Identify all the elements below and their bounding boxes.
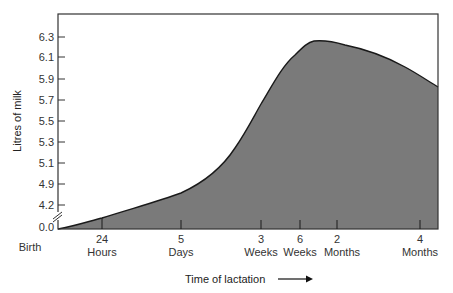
y-tick-6-3: 6.3 bbox=[39, 31, 54, 43]
x-tick-birth: Birth bbox=[19, 241, 42, 253]
y-tick-4-2: 4.2 bbox=[39, 199, 54, 211]
x-tick-2m-unit: Months bbox=[324, 246, 361, 258]
x-tick-3w-num: 3 bbox=[258, 233, 264, 245]
y-tick-5-7: 5.7 bbox=[39, 94, 54, 106]
x-tick-6w-num: 6 bbox=[297, 233, 303, 245]
x-tick-4m-unit: Months bbox=[402, 246, 439, 258]
y-tick-labels: 6.3 6.1 5.9 5.7 5.5 5.3 5.1 4.9 4.2 0.0 bbox=[39, 31, 54, 233]
x-tick-6w-unit: Weeks bbox=[283, 246, 317, 258]
x-axis-title: Time of lactation bbox=[185, 273, 265, 285]
x-tick-4m-num: 4 bbox=[417, 233, 423, 245]
y-tick-5-5: 5.5 bbox=[39, 115, 54, 127]
y-tick-5-9: 5.9 bbox=[39, 73, 54, 85]
y-tick-4-9: 4.9 bbox=[39, 178, 54, 190]
milk-volume-area bbox=[58, 41, 438, 229]
y-axis-title: Litres of milk bbox=[11, 90, 23, 152]
y-tick-5-3: 5.3 bbox=[39, 136, 54, 148]
x-tick-2m-num: 2 bbox=[334, 233, 340, 245]
x-tick-24-num: 24 bbox=[96, 233, 108, 245]
arrow-right-icon bbox=[278, 276, 313, 283]
y-tick-0-0: 0.0 bbox=[39, 221, 54, 233]
y-axis-ticks bbox=[58, 37, 65, 205]
x-tick-labels: Birth 24 Hours 5 Days 3 Weeks 6 Weeks 2 … bbox=[19, 233, 439, 258]
y-tick-6-1: 6.1 bbox=[39, 51, 54, 63]
lactation-chart: 6.3 6.1 5.9 5.7 5.5 5.3 5.1 4.9 4.2 0.0 … bbox=[0, 0, 453, 293]
y-tick-5-1: 5.1 bbox=[39, 157, 54, 169]
x-tick-24-unit: Hours bbox=[87, 246, 117, 258]
x-tick-5-num: 5 bbox=[178, 233, 184, 245]
x-tick-5-unit: Days bbox=[168, 246, 194, 258]
x-tick-3w-unit: Weeks bbox=[244, 246, 278, 258]
